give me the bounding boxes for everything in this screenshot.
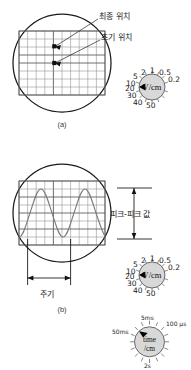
- final-position-label: 최종 위치: [99, 10, 130, 21]
- oscilloscope-figure: V/cm 0.2 0.5 1 2 5 10 20 30 40 50 최종 위치 …: [0, 0, 191, 370]
- knob-tick-label-50: 50: [146, 289, 156, 298]
- peak-arrow-down: [132, 233, 137, 239]
- knob-tick-label-2: 2: [141, 256, 146, 265]
- time-knob-tick-label-50ms: 50ms: [112, 328, 129, 335]
- initial-position-dot: [52, 61, 56, 65]
- knob-tick-label-1: 1: [150, 254, 155, 263]
- initial-position-label: 초기 위치: [101, 31, 132, 42]
- final-position-dot: [52, 44, 56, 48]
- knob-tick-label-0.5: 0.5: [159, 256, 171, 265]
- period-arrow-left: [28, 276, 34, 281]
- knob-tick-label-50: 50: [146, 101, 156, 110]
- knob-caption-line2: /cm: [144, 344, 155, 353]
- time-per-cm-knob[interactable]: time /cm: [130, 321, 169, 363]
- time-knob-tick-label-100us: 100 μs: [166, 320, 186, 327]
- peak-arrow-up: [132, 188, 137, 194]
- knob-tick-label-0.5: 0.5: [159, 68, 171, 77]
- knob-caption: V/cm: [143, 270, 162, 280]
- knob-caption-line1: time: [143, 335, 157, 344]
- time-knob-tick-label-2s: 2s: [144, 362, 151, 369]
- time-knob-tick-label-5ms: 5ms: [141, 314, 154, 321]
- panel-b: V/cm: [0, 140, 191, 370]
- panel-a-caption: (a): [42, 120, 82, 129]
- knob-tick-label-1: 1: [150, 66, 155, 75]
- final-position-leader: [55, 19, 98, 47]
- knob-tick-label-2: 2: [141, 68, 146, 77]
- knob-caption: V/cm: [143, 82, 162, 92]
- graticule-a: [19, 31, 105, 95]
- panel-b-graphics: V/cm: [0, 140, 191, 370]
- period-label: 주기: [40, 288, 54, 299]
- knob-tick-label-40: 40: [133, 286, 143, 295]
- panel-a-graphics: V/cm: [0, 0, 191, 132]
- peak-to-peak-label: 피크-피크 값: [110, 208, 150, 219]
- graticule-b: [19, 181, 105, 245]
- panel-b-caption: (b): [42, 305, 82, 314]
- knob-tick-label-40: 40: [133, 98, 143, 107]
- panel-a: V/cm 0.2 0.5 1 2 5 10 20 30 40 50 최종 위치 …: [0, 0, 191, 132]
- period-arrow-right: [65, 276, 71, 281]
